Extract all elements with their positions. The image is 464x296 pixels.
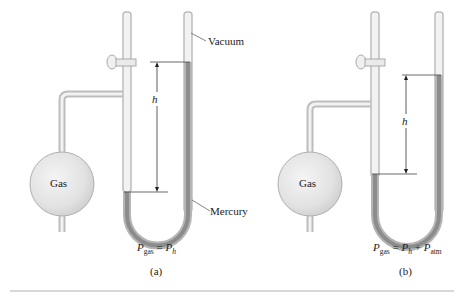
vacuum-leader: [191, 33, 206, 41]
mercury-label: Mercury: [210, 206, 248, 217]
panel-a: [30, 12, 210, 245]
mercury-leader: [192, 200, 210, 211]
left-tube: [123, 12, 131, 192]
caption-a: (a): [150, 265, 162, 277]
equation-a: Pgas = Ph: [137, 241, 176, 256]
u-bend: [375, 75, 439, 247]
vacuum-label: Vacuum: [208, 36, 244, 47]
height-label: h: [402, 116, 408, 127]
u-bend: [127, 62, 188, 245]
gas-label: Gas: [299, 178, 316, 189]
caption-b: (b): [399, 265, 412, 277]
height-label: h: [152, 94, 158, 105]
mercury-column: [375, 75, 439, 247]
panel-b: [278, 12, 443, 247]
mercury-column: [127, 62, 188, 245]
left-tube: [371, 12, 379, 177]
equation-b: Pgas = Ph + Patm: [373, 241, 442, 256]
gas-label: Gas: [50, 178, 67, 189]
bottom-divider: [10, 290, 454, 292]
